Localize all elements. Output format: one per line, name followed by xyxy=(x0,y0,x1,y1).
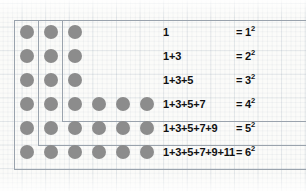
dot xyxy=(20,25,34,39)
equation-result-2: = 22 xyxy=(186,50,255,62)
dot xyxy=(44,97,58,111)
equation-result-3: = 32 xyxy=(186,74,255,86)
dot xyxy=(20,145,34,159)
dot xyxy=(20,97,34,111)
dot xyxy=(92,121,106,135)
equation-sum-1: 1 xyxy=(163,26,169,38)
equation-result-1: = 12 xyxy=(186,26,255,38)
dot xyxy=(92,145,106,159)
dot xyxy=(44,121,58,135)
dot xyxy=(68,73,82,87)
dot xyxy=(68,49,82,63)
dot xyxy=(68,25,82,39)
equation-result-4: = 42 xyxy=(186,98,255,110)
dot xyxy=(68,121,82,135)
dot xyxy=(44,25,58,39)
dot xyxy=(92,97,106,111)
dot xyxy=(116,121,130,135)
dot xyxy=(68,97,82,111)
dot xyxy=(20,121,34,135)
dot xyxy=(140,121,154,135)
dot xyxy=(44,145,58,159)
dot xyxy=(20,49,34,63)
dot xyxy=(44,73,58,87)
figure-canvas: 1= 121+3= 221+3+5= 321+3+5+7= 421+3+5+7+… xyxy=(0,0,306,191)
dot xyxy=(116,97,130,111)
dot xyxy=(140,97,154,111)
dot xyxy=(20,73,34,87)
dot xyxy=(116,145,130,159)
equation-result-5: = 52 xyxy=(186,122,255,134)
dot xyxy=(140,145,154,159)
dot xyxy=(68,145,82,159)
dot xyxy=(44,49,58,63)
equation-result-6: = 62 xyxy=(186,146,255,158)
equation-sum-2: 1+3 xyxy=(163,50,181,62)
